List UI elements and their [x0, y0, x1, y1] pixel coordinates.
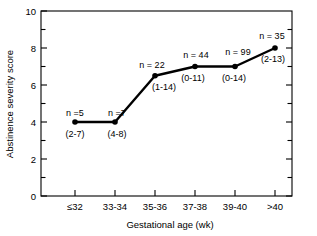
annotation-n-5: n = 99	[225, 47, 250, 57]
x-tick-label-4: 37-38	[183, 201, 207, 212]
y-tick-label-4: 4	[31, 117, 36, 128]
annotation-n-1: n =5	[66, 108, 84, 118]
annotation-n-3: n = 22	[139, 60, 164, 70]
x-axis-ticks	[75, 190, 275, 196]
x-tick-label-6: >40	[267, 201, 283, 212]
annotation-range-4: (0-11)	[181, 73, 204, 83]
y-axis-title: Abstinence severity score	[4, 50, 15, 158]
data-point	[112, 119, 118, 125]
data-point	[272, 45, 278, 51]
right-axis-ticks	[286, 30, 292, 197]
y-tick-label-0: 0	[31, 191, 36, 202]
data-point	[72, 119, 78, 125]
annotation-range-3: (1-14)	[152, 82, 176, 92]
data-point	[192, 64, 198, 70]
annotation-n-6: n = 35	[259, 31, 284, 41]
y-axis-tick-labels: 0 2 4 6 8 10	[25, 6, 36, 202]
annotation-range-2: (4-8)	[107, 129, 126, 139]
x-tick-label-1: ≤32	[67, 201, 83, 212]
y-tick-label-2: 2	[31, 154, 36, 165]
x-tick-label-3: 35-36	[143, 201, 167, 212]
x-tick-label-5: 39-40	[223, 201, 247, 212]
annotation-range-6: (2-13)	[261, 54, 285, 64]
y-tick-label-10: 10	[25, 6, 36, 17]
x-axis-tick-labels: ≤32 33-34 35-36 37-38 39-40 >40	[67, 201, 283, 212]
data-point	[232, 64, 238, 70]
x-axis-title: Gestational age (wk)	[126, 219, 213, 230]
chart-figure: 0 2 4 6 8 10 ≤32 33-34 35-36 37-38 39-40…	[0, 0, 317, 236]
plot-frame	[41, 11, 292, 196]
data-point	[152, 73, 158, 79]
y-tick-label-6: 6	[31, 80, 36, 91]
x-tick-label-2: 33-34	[103, 201, 127, 212]
y-axis-minor-ticks	[41, 30, 46, 178]
annotation-n-4: n = 44	[183, 50, 208, 60]
annotation-range-5: (0-14)	[222, 73, 246, 83]
line-chart: 0 2 4 6 8 10 ≤32 33-34 35-36 37-38 39-40…	[0, 0, 317, 236]
annotation-n-2: n =7	[108, 108, 126, 118]
annotation-range-1: (2-7)	[65, 129, 84, 139]
y-tick-label-8: 8	[31, 43, 36, 54]
